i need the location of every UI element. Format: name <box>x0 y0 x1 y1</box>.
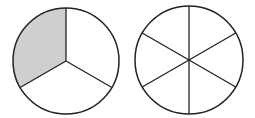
divider-line <box>66 61 112 88</box>
divider-line <box>189 33 236 60</box>
circle-sixths <box>135 6 243 114</box>
fraction-circles-diagram <box>0 0 255 118</box>
divider-line <box>189 60 236 87</box>
divider-line <box>142 60 189 87</box>
circle-thirds <box>13 8 119 114</box>
divider-line <box>142 33 189 60</box>
